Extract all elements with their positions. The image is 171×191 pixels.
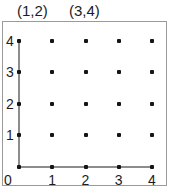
- plot-frame: [2, 21, 167, 186]
- coordinate-annotations: (1,2) (3,4): [0, 0, 171, 21]
- coordinate-label-1-2: (1,2): [17, 1, 48, 20]
- coordinate-label-3-4: (3,4): [69, 1, 100, 20]
